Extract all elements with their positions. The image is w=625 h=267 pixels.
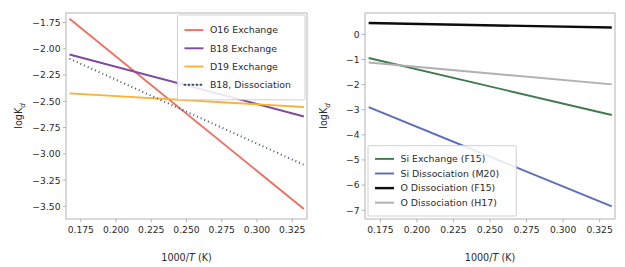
plot-svg-left: 0.1750.2000.2250.2500.2750.3000.325−1.75…: [0, 0, 313, 267]
y-tick-label: −2.50: [32, 96, 60, 107]
x-tick-label: 0.275: [209, 224, 235, 235]
x-tick-label: 0.250: [173, 224, 199, 235]
figure-container: 0.1750.2000.2250.2500.2750.3000.325−1.75…: [0, 0, 625, 267]
y-tick-label: −2: [346, 79, 360, 90]
chart-panel-left: 0.1750.2000.2250.2500.2750.3000.325−1.75…: [0, 0, 313, 267]
legend-label: O Dissociation (H17): [401, 197, 497, 208]
legend-label: Si Exchange (F15): [401, 153, 486, 164]
legend-label: B18 Exchange: [210, 43, 277, 54]
chart-panel-right: 0.1750.2000.2250.2500.2750.3000.3250−1−2…: [313, 0, 625, 267]
x-tick-label: 0.325: [586, 224, 612, 235]
x-axis-title: 1000/T (K): [465, 252, 515, 263]
y-tick-label: −1.75: [32, 17, 60, 28]
y-axis-title: logKd: [318, 103, 332, 129]
y-tick-label: −3.50: [32, 201, 60, 212]
y-tick-label: −2.00: [32, 43, 60, 54]
x-tick-label: 0.225: [440, 224, 466, 235]
x-tick-label: 0.225: [138, 224, 164, 235]
x-tick-label: 0.175: [367, 224, 393, 235]
x-tick-label: 0.275: [513, 224, 539, 235]
legend-label: B18, Dissociation: [210, 79, 291, 90]
y-tick-label: −7: [346, 205, 360, 216]
svg-text:logKd: logKd: [13, 103, 27, 129]
svg-text:logKd: logKd: [318, 103, 332, 129]
y-tick-label: −3.25: [32, 175, 60, 186]
x-tick-label: 0.200: [404, 224, 430, 235]
y-tick-label: −3: [346, 104, 360, 115]
y-tick-label: −5: [346, 154, 360, 165]
y-tick-label: −2.25: [32, 69, 60, 80]
x-tick-label: 0.300: [550, 224, 576, 235]
y-tick-label: 0: [354, 29, 360, 40]
y-tick-label: −3.00: [32, 148, 60, 159]
y-tick-label: −4: [346, 129, 360, 140]
legend-label: Si Dissociation (M20): [401, 168, 500, 179]
x-tick-label: 0.250: [477, 224, 503, 235]
x-tick-label: 0.200: [103, 224, 129, 235]
x-tick-label: 0.300: [244, 224, 270, 235]
x-tick-label: 0.325: [279, 224, 305, 235]
y-tick-label: −1: [346, 54, 360, 65]
legend-label: D19 Exchange: [210, 61, 278, 72]
y-tick-label: −2.75: [32, 122, 60, 133]
legend-label: O Dissociation (F15): [401, 182, 496, 193]
x-tick-label: 0.175: [68, 224, 94, 235]
plot-svg-right: 0.1750.2000.2250.2500.2750.3000.3250−1−2…: [313, 0, 625, 267]
y-tick-label: −6: [346, 179, 360, 190]
legend-label: O16 Exchange: [210, 24, 278, 35]
y-axis-title: logKd: [13, 103, 27, 129]
x-axis-title: 1000/T (K): [161, 252, 211, 263]
